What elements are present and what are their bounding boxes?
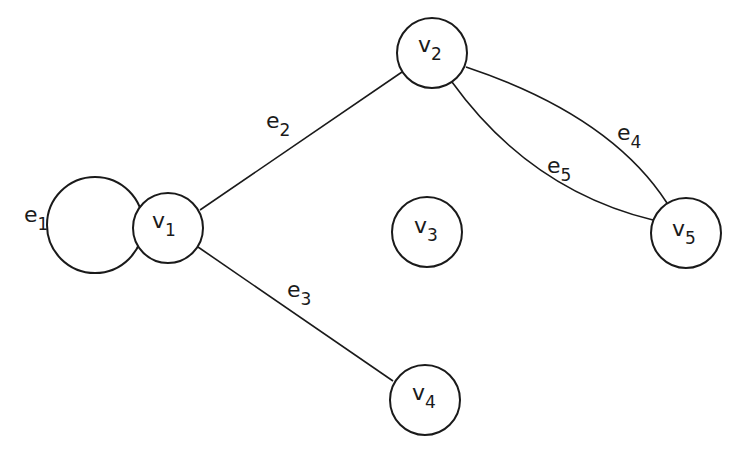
edge-label-e3: e3	[287, 277, 311, 309]
edge-e2	[200, 72, 402, 210]
edge-e3	[198, 247, 393, 381]
edge-label-e2: e2	[266, 108, 290, 140]
edge-label-e4: e4	[617, 120, 641, 152]
edge-e1-loop	[47, 177, 143, 273]
graph-diagram: v1 v2 v3 v4 v5 e1 e2 e3 e4 e5	[0, 0, 740, 461]
edge-label-e5: e5	[547, 153, 571, 185]
edge-label-e1: e1	[24, 202, 48, 234]
